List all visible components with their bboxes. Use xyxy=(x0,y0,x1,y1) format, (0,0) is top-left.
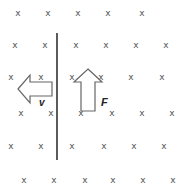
field-into-page-mark: x xyxy=(21,175,27,185)
field-into-page-mark: x xyxy=(133,40,139,50)
field-into-page-mark: x xyxy=(131,141,137,151)
field-into-page-mark: x xyxy=(51,175,57,185)
field-into-page-mark: x xyxy=(163,40,169,50)
field-into-page-mark: x xyxy=(45,8,51,18)
field-into-page-mark: x xyxy=(69,72,75,82)
field-into-page-mark: x xyxy=(12,40,18,50)
field-into-page-mark: x xyxy=(169,108,175,118)
field-into-page-mark: x xyxy=(73,40,79,50)
field-into-page-mark: x xyxy=(38,141,44,151)
field-into-page-mark: x xyxy=(42,40,48,50)
field-into-page-mark: x xyxy=(69,141,75,151)
field-into-page-mark: x xyxy=(48,108,54,118)
field-into-page-mark: x xyxy=(140,175,146,185)
field-diagram: xxxxxxxxxxxxxxxxxxxxxxxxxxxxxxxxxxx v F xyxy=(0,0,184,192)
field-into-page-mark: x xyxy=(128,72,134,82)
field-into-page-mark: x xyxy=(161,141,167,151)
field-into-page-mark: x xyxy=(8,72,14,82)
velocity-label: v xyxy=(39,97,45,108)
field-into-page-mark: x xyxy=(18,108,24,118)
velocity-arrow-icon xyxy=(18,75,52,103)
field-into-page-mark: x xyxy=(110,175,116,185)
field-into-page-mark: x xyxy=(75,8,81,18)
field-into-page-mark: x xyxy=(8,141,14,151)
field-into-page-mark: x xyxy=(103,40,109,50)
field-into-page-mark: x xyxy=(139,108,145,118)
field-into-page-mark: x xyxy=(170,175,176,185)
field-into-page-mark: x xyxy=(15,8,21,18)
force-label: F xyxy=(101,96,108,108)
field-into-page-mark: x xyxy=(139,8,145,18)
field-into-page-mark: x xyxy=(109,108,115,118)
field-into-page-mark: x xyxy=(101,141,107,151)
field-into-page-mark: x xyxy=(82,175,88,185)
field-into-page-mark: x xyxy=(159,72,165,82)
field-into-page-mark: x xyxy=(105,8,111,18)
diagram-svg: xxxxxxxxxxxxxxxxxxxxxxxxxxxxxxxxxxx xyxy=(0,0,184,192)
field-into-page-mark: x xyxy=(38,72,44,82)
